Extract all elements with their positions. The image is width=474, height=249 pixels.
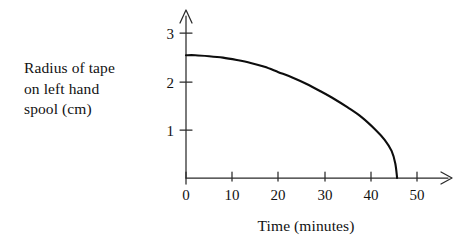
x-tick-label: 40	[364, 187, 379, 203]
x-tick-label: 20	[271, 187, 286, 203]
x-axis-title: Time (minutes)	[186, 216, 426, 235]
data-curve-radius	[186, 55, 397, 178]
y-tick-label: 2	[167, 75, 175, 91]
x-tick-label: 10	[225, 187, 240, 203]
y-tick-label: 3	[167, 26, 175, 42]
plot-area: 0 10 20 30 40 50 1 2 3	[0, 0, 474, 249]
chart-figure: Radius of tape on left hand spool (cm) 0	[0, 0, 474, 249]
y-axis-tick-labels: 1 2 3	[167, 26, 175, 139]
x-tick-label: 50	[410, 187, 425, 203]
x-tick-label: 0	[182, 187, 190, 203]
y-tick-label: 1	[167, 123, 175, 139]
x-axis-tick-labels: 0 10 20 30 40 50	[182, 187, 424, 203]
x-tick-label: 30	[318, 187, 333, 203]
